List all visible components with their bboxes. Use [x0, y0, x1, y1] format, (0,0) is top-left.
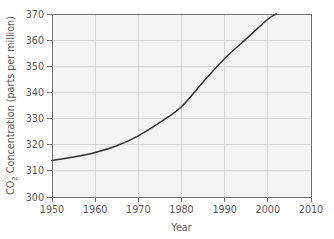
x-tick-label: 1950	[40, 204, 64, 215]
x-tick-label: 1960	[83, 204, 107, 215]
x-tick-label: 1990	[212, 204, 236, 215]
y-axis-title-prefix: CO	[5, 180, 16, 195]
x-tick-label: 2000	[256, 204, 280, 215]
chart-canvas: 370 360 350 340 330 320 310 300 1950 196…	[0, 0, 334, 239]
y-tick-label: 300	[26, 192, 44, 203]
x-tick-label: 1980	[169, 204, 193, 215]
y-tick-label: 350	[26, 61, 44, 72]
x-tick-label: 1970	[126, 204, 150, 215]
y-axis-title-main: Concentration (parts per million)	[5, 16, 16, 173]
y-tick-label: 310	[26, 165, 44, 176]
y-tick-label: 320	[26, 139, 44, 150]
y-tick-label: 370	[26, 9, 44, 20]
x-axis-title: Year	[170, 222, 191, 233]
y-tick-label: 330	[26, 113, 44, 124]
x-tick-label: 2010	[299, 204, 323, 215]
co2-concentration-chart: 370 360 350 340 330 320 310 300 1950 196…	[0, 0, 334, 239]
y-tick-label: 340	[26, 87, 44, 98]
y-tick-label: 360	[26, 35, 44, 46]
